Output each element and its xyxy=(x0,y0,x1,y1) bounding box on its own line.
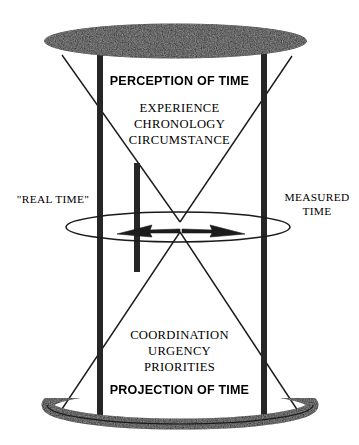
projection-of-time-heading: PROJECTION OF TIME xyxy=(13,382,347,397)
perception-of-time-heading: PERCEPTION OF TIME xyxy=(13,73,347,88)
top-disc-ellipse xyxy=(45,24,307,58)
waist-group xyxy=(66,212,290,242)
perception-terms-list: EXPERIENCE CHRONOLOGY CIRCUMSTANCE xyxy=(0,100,359,148)
projection-terms-list: COORDINATION URGENCY PRIORITIES xyxy=(0,327,359,375)
top-disc xyxy=(45,24,307,58)
diagram-canvas xyxy=(0,0,359,445)
real-time-label: "REAL TIME" xyxy=(10,193,96,207)
waist-ellipse xyxy=(66,212,290,242)
time-diagram: PERCEPTION OF TIME EXPERIENCE CHRONOLOGY… xyxy=(0,0,359,445)
measured-time-label: MEASURED TIME xyxy=(277,191,357,218)
